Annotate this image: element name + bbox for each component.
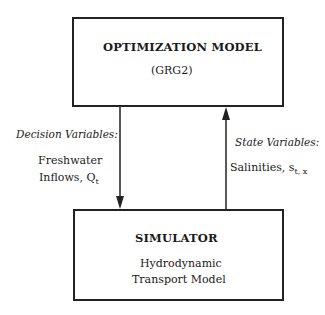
state-variables-heading: State Variables:	[235, 136, 319, 148]
salinities-text: Salinities, s	[230, 161, 294, 174]
down-arrow	[116, 107, 124, 209]
decision-variables-heading: Decision Variables:	[16, 128, 118, 140]
state-variables-line1: Salinities, st, x	[230, 161, 307, 176]
decision-variables-line1: Freshwater	[38, 154, 102, 167]
up-arrow	[222, 107, 230, 209]
decision-variables-line2: Inflows, Qt	[39, 171, 99, 186]
salinities-subscript: t, x	[294, 167, 307, 176]
inflows-subscript: t	[95, 177, 98, 186]
inflows-text: Inflows, Q	[39, 171, 95, 184]
